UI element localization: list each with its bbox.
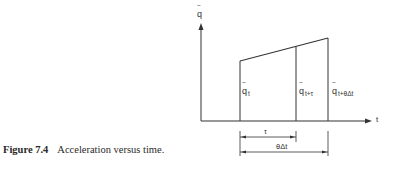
theta-arrow-right-icon <box>322 151 327 154</box>
y-axis-arrow-icon <box>199 23 204 30</box>
tau-label: τ <box>264 128 267 135</box>
figure-caption: Figure 7.4Acceleration versus time. <box>3 144 164 155</box>
x-axis-label: t <box>376 116 378 124</box>
y-axis-label-text: q <box>197 10 202 19</box>
caption-text: Acceleration versus time. <box>57 144 164 155</box>
x-axis-arrow-icon <box>365 119 372 124</box>
theta-arrow-left-icon <box>241 151 246 154</box>
label-q-t: qt <box>242 87 250 96</box>
tau-arrow-left-icon <box>241 136 246 139</box>
label-q-t-theta: qt+θΔt <box>332 87 353 96</box>
tau-arrow-right-icon <box>290 136 295 139</box>
acceleration-line <box>240 38 328 61</box>
theta-dt-label: θΔt <box>276 143 287 151</box>
label-q-t-tau: qt+τ <box>299 87 313 96</box>
y-axis-label: q <box>197 10 202 19</box>
figure-number: Figure 7.4 <box>3 144 48 155</box>
